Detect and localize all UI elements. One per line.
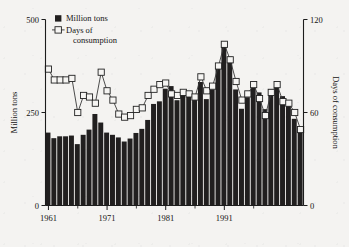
- x-axis-tick-label: 1961: [40, 213, 57, 223]
- data-point-marker: [151, 86, 157, 92]
- bar: [110, 135, 115, 206]
- bar: [251, 88, 256, 206]
- bar: [63, 136, 68, 205]
- legend-swatch-days-of-consumption: [55, 27, 61, 33]
- data-point-marker: [256, 95, 262, 101]
- data-point-marker: [139, 105, 145, 111]
- bar: [198, 82, 203, 206]
- bar: [46, 133, 51, 206]
- data-point-marker: [168, 91, 174, 97]
- grain-stocks-chart: 02505000601201961197119811991Million ton…: [0, 0, 349, 247]
- data-point-marker: [280, 99, 286, 105]
- data-point-marker: [127, 113, 133, 119]
- bar: [145, 120, 150, 206]
- bar: [128, 139, 133, 206]
- bar: [186, 93, 191, 205]
- bar: [192, 97, 197, 206]
- data-point-marker: [297, 126, 303, 132]
- data-point-marker: [262, 113, 268, 119]
- bar: [69, 136, 74, 206]
- legend-label-million-tons: Million tons: [66, 13, 108, 23]
- bar: [262, 109, 267, 205]
- data-point-marker: [239, 97, 245, 103]
- bar: [169, 86, 174, 205]
- chart-legend: [52, 15, 65, 33]
- data-point-marker: [163, 80, 169, 86]
- data-point-marker: [245, 91, 251, 97]
- data-point-marker: [116, 111, 122, 117]
- bar: [175, 100, 180, 205]
- y-axis-tick-label: 500: [26, 15, 39, 25]
- x-axis-tick-label: 1991: [216, 213, 233, 223]
- data-point-marker: [145, 92, 151, 98]
- y-axis-tick-label: 250: [26, 108, 39, 118]
- data-point-marker: [268, 89, 274, 95]
- data-point-marker: [57, 77, 63, 83]
- data-point-marker: [274, 82, 280, 88]
- bar: [257, 92, 262, 205]
- x-axis-tick-label: 1981: [157, 213, 174, 223]
- data-point-marker: [227, 57, 233, 63]
- data-point-marker: [104, 88, 110, 94]
- bar: [92, 114, 97, 206]
- chart-container: 02505000601201961197119811991Million ton…: [0, 0, 349, 247]
- bar: [122, 142, 127, 206]
- bar: [98, 123, 103, 206]
- bar: [280, 96, 285, 205]
- bar: [75, 144, 80, 205]
- bar: [233, 89, 238, 205]
- data-point-marker: [221, 41, 227, 47]
- bar: [216, 67, 221, 205]
- bar: [133, 133, 138, 206]
- data-point-marker: [51, 77, 57, 83]
- data-point-marker: [198, 74, 204, 80]
- data-point-marker: [45, 66, 51, 72]
- left-axis-title: Million tons: [9, 92, 19, 134]
- bar: [151, 104, 156, 206]
- bar: [227, 57, 232, 206]
- data-point-marker: [251, 82, 257, 88]
- y2-axis-tick-label: 0: [310, 201, 314, 211]
- bar: [51, 138, 56, 205]
- data-point-marker: [122, 114, 128, 120]
- bar: [87, 130, 92, 206]
- bar: [268, 89, 273, 205]
- bar: [204, 99, 209, 205]
- y2-axis-tick-label: 60: [310, 108, 319, 118]
- data-point-marker: [292, 109, 298, 115]
- data-point-marker: [192, 94, 198, 100]
- data-point-marker: [86, 94, 92, 100]
- bar: [139, 129, 144, 206]
- bar: [81, 135, 86, 206]
- bar: [245, 97, 250, 205]
- data-point-marker: [110, 97, 116, 103]
- data-point-marker: [204, 88, 210, 94]
- data-point-marker: [233, 78, 239, 84]
- bar: [104, 133, 109, 206]
- bar-series: [46, 41, 303, 205]
- right-axis-title: Days of consumption: [331, 76, 341, 149]
- bar: [239, 109, 244, 206]
- data-point-marker: [63, 77, 69, 83]
- bar: [221, 41, 226, 205]
- data-point-marker: [81, 92, 87, 98]
- data-point-marker: [174, 92, 180, 98]
- bar: [157, 101, 162, 205]
- data-point-marker: [133, 106, 139, 112]
- legend-label-days-line1: Days of: [66, 25, 93, 35]
- bar: [163, 89, 168, 206]
- bar: [298, 132, 303, 206]
- data-point-marker: [186, 91, 192, 97]
- y-axis-tick-label: 0: [35, 201, 39, 211]
- legend-swatch-million-tons: [55, 15, 61, 21]
- bar: [116, 137, 121, 205]
- data-point-marker: [98, 69, 104, 75]
- data-point-marker: [157, 82, 163, 88]
- data-point-marker: [69, 75, 75, 81]
- bar: [286, 103, 291, 205]
- data-point-marker: [75, 109, 81, 115]
- x-axis-tick-label: 1971: [99, 213, 116, 223]
- bar: [180, 94, 185, 206]
- data-point-marker: [180, 89, 186, 95]
- data-point-marker: [92, 100, 98, 106]
